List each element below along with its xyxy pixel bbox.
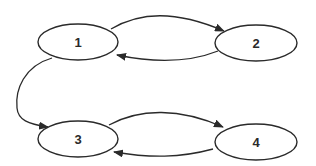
node-3: 3 [38, 121, 118, 157]
edge-4-to-3 [114, 149, 213, 156]
state-diagram: 1 2 3 4 [0, 0, 316, 166]
node-4-label: 4 [252, 135, 260, 150]
node-1: 1 [38, 24, 118, 60]
edge-3-to-4 [109, 112, 223, 127]
edge-1-to-2 [111, 16, 224, 31]
node-2: 2 [215, 25, 297, 61]
node-2-label: 2 [252, 36, 259, 51]
edge-2-to-1 [117, 51, 218, 61]
node-4: 4 [215, 124, 297, 160]
edge-1-to-3 [17, 58, 52, 127]
node-1-label: 1 [74, 35, 81, 50]
node-3-label: 3 [74, 132, 81, 147]
